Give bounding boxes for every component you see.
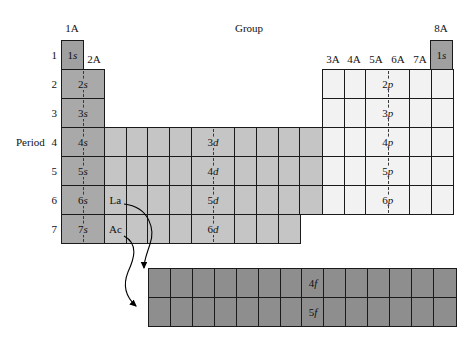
orbital-cell <box>235 128 257 156</box>
orbital-label: 5f <box>307 307 320 318</box>
orbital-label-cell: 4f <box>302 269 324 297</box>
orbital-label: 1s <box>435 50 449 61</box>
periodic-table-block-diagram: 1A Group 8A 2A 3A 4A 5A 6A 7A Period 1 2… <box>0 0 462 344</box>
orbital-label: 3p <box>380 108 395 119</box>
orbital-label: 2s <box>76 79 90 90</box>
d-block-row-4: 3d <box>104 127 323 157</box>
orbital-cell <box>259 298 281 326</box>
orbital-label: 4s <box>76 137 90 148</box>
orbital-cell <box>346 269 368 297</box>
lanthanum-cell: La <box>105 186 127 214</box>
orbital-label-cell: 2p <box>366 70 409 98</box>
ac-to-5f-arrow <box>124 236 136 306</box>
orbital-cell <box>279 128 301 156</box>
orbital-label: 7s <box>76 224 90 235</box>
orbital-cell <box>237 298 259 326</box>
period-number-4: 4 <box>39 136 57 148</box>
orbital-label-cell: 5f <box>302 298 324 326</box>
period-number-1: 1 <box>39 49 57 61</box>
orbital-label-cell: 4p <box>366 128 409 156</box>
orbital-label: 6p <box>380 195 395 206</box>
orbital-cell <box>345 157 367 185</box>
orbital-cell <box>368 269 390 297</box>
p-block-row-6: 6p <box>322 185 454 215</box>
orbital-cell <box>432 99 454 127</box>
orbital-cell <box>345 70 367 98</box>
orbital-cell <box>324 298 346 326</box>
orbital-label: 6s <box>76 195 90 206</box>
header-1a: 1A <box>55 22 89 34</box>
orbital-cell <box>193 269 215 297</box>
orbital-cell <box>170 215 192 243</box>
orbital-cell <box>300 128 322 156</box>
orbital-cell <box>390 269 412 297</box>
period-number-2: 2 <box>39 78 57 90</box>
orbital-cell <box>215 298 237 326</box>
orbital-cell <box>127 215 149 243</box>
p-block-row-4: 4p <box>322 127 454 157</box>
orbital-cell <box>432 128 454 156</box>
element-symbol-ac: Ac <box>109 224 122 235</box>
orbital-cell <box>170 186 192 214</box>
orbital-cell <box>323 70 345 98</box>
orbital-cell <box>105 157 127 185</box>
one-s-cell-right: 1s <box>430 40 453 70</box>
orbital-cell <box>410 128 432 156</box>
orbital-label: 2p <box>380 79 395 90</box>
orbital-cell <box>235 186 257 214</box>
orbital-cell <box>281 298 303 326</box>
orbital-cell <box>434 298 456 326</box>
orbital-cell <box>257 128 279 156</box>
orbital-cell <box>410 70 432 98</box>
orbital-label: 5d <box>206 195 221 206</box>
orbital-cell <box>259 269 281 297</box>
period-number-5: 5 <box>39 165 57 177</box>
orbital-cell <box>127 186 149 214</box>
p-block-row-3: 3p <box>322 98 454 128</box>
orbital-cell <box>412 269 434 297</box>
orbital-label: 4f <box>307 278 320 289</box>
orbital-cell <box>345 99 367 127</box>
orbital-label: 5s <box>76 166 90 177</box>
orbital-cell <box>149 298 171 326</box>
orbital-cell <box>235 215 257 243</box>
orbital-cell <box>105 128 127 156</box>
orbital-label: 1s <box>66 50 80 61</box>
orbital-cell <box>323 128 345 156</box>
orbital-cell <box>149 269 171 297</box>
orbital-label-cell: 6p <box>366 186 409 214</box>
orbital-cell <box>193 298 215 326</box>
orbital-cell <box>148 157 170 185</box>
orbital-cell <box>148 128 170 156</box>
s-block-row-2: 2s <box>61 69 105 99</box>
group-label: Group <box>219 22 279 34</box>
orbital-cell <box>215 269 237 297</box>
orbital-cell <box>148 186 170 214</box>
orbital-cell <box>300 157 322 185</box>
f-block-row-5f: 5f <box>148 297 457 327</box>
d-block-row-6: La 5d <box>104 185 323 215</box>
orbital-cell <box>257 157 279 185</box>
orbital-cell <box>345 128 367 156</box>
orbital-label: 3s <box>76 108 90 119</box>
orbital-cell <box>324 269 346 297</box>
orbital-cell <box>279 215 301 243</box>
orbital-cell <box>323 186 345 214</box>
orbital-cell <box>281 269 303 297</box>
orbital-cell <box>432 157 454 185</box>
orbital-cell <box>434 269 456 297</box>
orbital-cell <box>171 298 193 326</box>
orbital-cell <box>323 99 345 127</box>
period-number-6: 6 <box>39 194 57 206</box>
orbital-label-cell: 4d <box>192 157 235 185</box>
orbital-cell <box>170 128 192 156</box>
orbital-cell <box>432 186 454 214</box>
orbital-cell <box>235 157 257 185</box>
orbital-cell <box>127 157 149 185</box>
orbital-label: 4p <box>380 137 395 148</box>
orbital-label-cell: 3p <box>366 99 409 127</box>
orbital-label: 4d <box>206 166 221 177</box>
orbital-cell <box>300 186 322 214</box>
header-8a: 8A <box>424 22 458 34</box>
period-number-3: 3 <box>39 107 57 119</box>
